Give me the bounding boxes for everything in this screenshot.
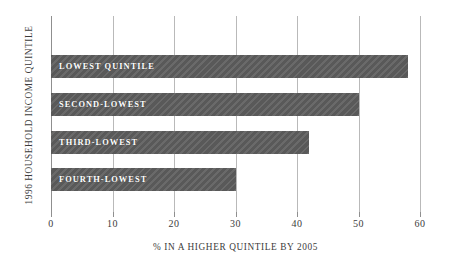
x-tick-label-10: 10 [93,218,133,229]
bar-category-label: THIRD-LOWEST [59,131,138,154]
bar-row: LOWEST QUINTILE [51,55,420,78]
bar-category-label: FOURTH-LOWEST [59,168,147,191]
bar-category-label: SECOND-LOWEST [59,93,147,116]
bar-row: FOURTH-LOWEST [51,168,420,191]
x-tick-label-40: 40 [277,218,317,229]
x-axis-ticks: 0102030405060 [51,212,420,234]
x-tick-mark-20 [174,212,175,217]
gridline-60 [420,16,421,212]
y-axis-title: 1996 HOUSEHOLD INCOME QUINTILE [18,0,40,230]
bar-row: SECOND-LOWEST [51,93,420,116]
x-tick-label-50: 50 [339,218,379,229]
bar-category-label: LOWEST QUINTILE [59,55,155,78]
x-axis-title: % IN A HIGHER QUINTILE BY 2005 [51,242,420,252]
x-tick-label-30: 30 [216,218,256,229]
x-tick-label-20: 20 [154,218,194,229]
x-tick-mark-0 [51,212,52,217]
x-tick-mark-10 [113,212,114,217]
x-tick-mark-30 [236,212,237,217]
x-tick-mark-60 [420,212,421,217]
x-tick-label-0: 0 [31,218,71,229]
x-tick-label-60: 60 [400,218,440,229]
x-tick-mark-50 [359,212,360,217]
x-tick-mark-40 [297,212,298,217]
plot-area: LOWEST QUINTILESECOND-LOWESTTHIRD-LOWEST… [51,16,420,212]
bar-row: THIRD-LOWEST [51,131,420,154]
bar-chart-figure: 1996 HOUSEHOLD INCOME QUINTILE LOWEST QU… [0,0,452,268]
